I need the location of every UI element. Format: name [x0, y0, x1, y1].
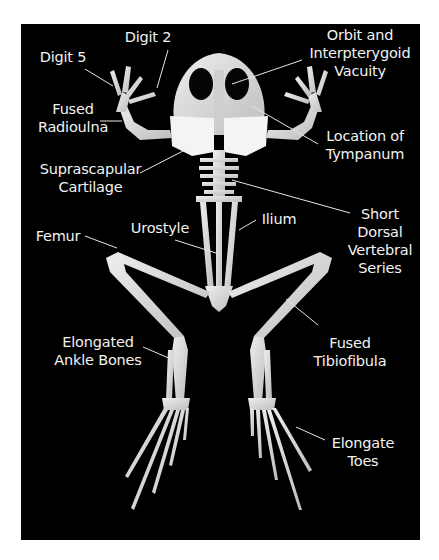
- label-femur: Femur: [28, 227, 88, 245]
- left-leg: [106, 252, 210, 510]
- label-fused-radioulna: Fused Radioulna: [28, 100, 118, 136]
- label-tympanum: Location of Tympanum: [310, 127, 420, 163]
- frog-skeleton-illustration: [0, 0, 439, 560]
- leader-short-dorsal: [232, 180, 350, 213]
- leader-fused-tibiofibula: [286, 299, 318, 325]
- label-elongated-ankle: Elongated Ankle Bones: [48, 333, 148, 369]
- right-leg: [228, 252, 332, 510]
- label-digit-2: Digit 2: [113, 28, 183, 46]
- leader-femur: [85, 236, 117, 248]
- label-fused-tibiofibula: Fused Tibiofibula: [300, 334, 400, 370]
- label-suprascapular: Suprascapular Cartilage: [28, 160, 153, 196]
- label-elongate-toes: Elongate Toes: [318, 434, 408, 470]
- label-orbit: Orbit and Interpterygoid Vacuity: [300, 26, 420, 80]
- leader-digit-5: [85, 69, 113, 86]
- label-short-dorsal: Short Dorsal Vertebral Series: [340, 205, 420, 277]
- label-urostyle: Urostyle: [120, 219, 200, 237]
- leader-digit-2: [157, 50, 168, 88]
- label-digit-5: Digit 5: [28, 48, 98, 66]
- label-ilium: Ilium: [254, 210, 304, 228]
- vertebral-column: [196, 150, 242, 202]
- left-arm: [110, 66, 172, 140]
